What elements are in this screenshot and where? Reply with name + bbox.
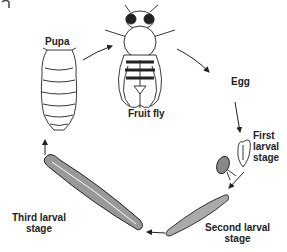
third-larval-label: Third larval stage — [12, 212, 66, 234]
second-larval-label: Second larval stage — [205, 222, 270, 244]
third-larval-label-line1: Third larval — [12, 212, 66, 223]
egg-drawing — [214, 154, 236, 180]
fruit-fly-label: Fruit fly — [128, 108, 165, 119]
first-larval-label-line1: First — [253, 130, 279, 141]
first-larval-label: First larval stage — [253, 130, 279, 163]
arrow-fly-to-egg — [177, 49, 209, 72]
pupa-drawing — [41, 48, 76, 130]
pupa-label: Pupa — [45, 36, 69, 47]
arrow-second-to-third — [147, 232, 165, 233]
fruit-fly-life-cycle-diagram: Pupa Fruit fly Egg First larval stage Se… — [0, 0, 287, 252]
second-larval-label-line1: Second larval — [205, 222, 270, 233]
arrow-pupa-to-fly — [83, 46, 112, 60]
third-larval-label-line2: stage — [12, 223, 66, 234]
title-fragment — [2, 1, 9, 9]
egg-label: Egg — [231, 76, 250, 87]
second-larval-label-line2: stage — [205, 233, 270, 244]
first-larval-label-line2: larval — [253, 141, 279, 152]
arrow-first-to-second — [229, 172, 244, 188]
first-larval-stage-drawing — [238, 140, 251, 167]
first-larval-label-line3: stage — [253, 152, 279, 163]
arrow-egg-to-first — [235, 102, 240, 132]
fruit-fly-drawing — [105, 5, 175, 108]
